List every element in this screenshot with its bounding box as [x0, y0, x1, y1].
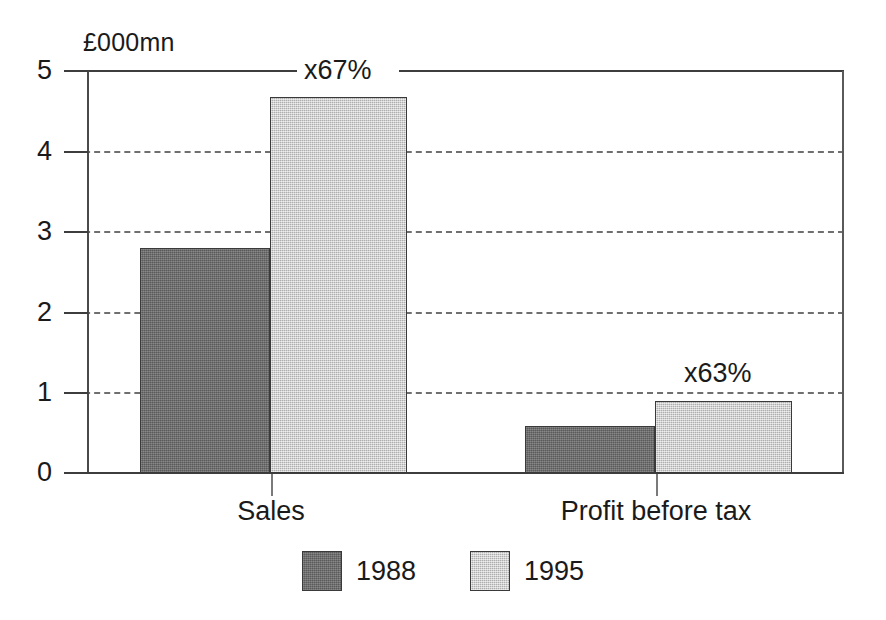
legend-item-1988[interactable]: 1988 — [302, 551, 416, 591]
y-axis-title: £000mn — [83, 28, 175, 57]
bar-sales-1988[interactable] — [140, 248, 270, 473]
category-label-sales: Sales — [171, 496, 371, 526]
bars-layer — [0, 71, 886, 473]
legend-label-1988: 1988 — [356, 558, 416, 585]
legend: 1988 1995 — [0, 551, 886, 591]
category-label-profit: Profit before tax — [506, 496, 806, 526]
legend-label-1995: 1995 — [524, 558, 584, 585]
category-tick-sales — [271, 474, 273, 496]
bar-profit-1995[interactable] — [655, 401, 792, 473]
legend-item-1995[interactable]: 1995 — [470, 551, 584, 591]
category-tick-profit — [656, 474, 658, 496]
annotation-sales-growth: x67% — [297, 57, 379, 84]
bar-sales-1995[interactable] — [270, 97, 407, 473]
bar-chart: £000mn 5 4 3 2 1 0 x67% x63% Sales Profi… — [0, 0, 886, 620]
legend-swatch-icon-1988 — [302, 551, 342, 591]
legend-swatch-icon-1995 — [470, 551, 510, 591]
bar-profit-1988[interactable] — [525, 426, 655, 473]
annotation-profit-growth: x63% — [677, 360, 759, 387]
